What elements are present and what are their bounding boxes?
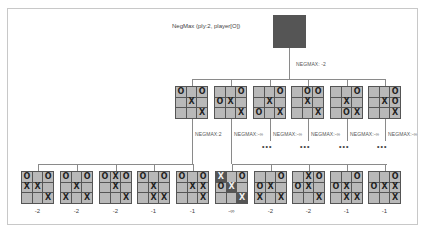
ply2-right-connector [232, 164, 387, 165]
o-mark-cell: O [313, 87, 323, 97]
diagram-title: NegMax (ply:2, player[O]) [172, 23, 240, 29]
ply1-drop-line [347, 79, 348, 86]
empty-cell [237, 183, 247, 193]
o-mark-cell: O [352, 87, 362, 97]
empty-cell [22, 193, 32, 203]
o-mark-cell: O [22, 172, 32, 182]
empty-cell [33, 193, 43, 203]
empty-cell [369, 193, 379, 203]
ply1-board: OXOX [253, 86, 286, 119]
x-mark-cell: X [187, 98, 197, 108]
empty-cell [72, 172, 82, 182]
ply2-drop-line [347, 164, 348, 171]
x-mark-cell: X [111, 183, 121, 193]
empty-cell [314, 183, 324, 193]
o-mark-cell: O [159, 172, 169, 182]
o-mark-cell: O [293, 183, 303, 193]
empty-cell [293, 172, 303, 182]
ply2-drop-line [116, 164, 117, 171]
empty-cell [254, 98, 264, 108]
empty-cell [369, 108, 379, 118]
x-mark-cell: X [276, 193, 286, 203]
ply2-drop-line [193, 164, 194, 171]
ply1-board: OOXX [291, 86, 324, 119]
ply2-left-connector [38, 164, 193, 165]
o-mark-cell: O [369, 183, 379, 193]
o-mark-cell: O [303, 87, 313, 97]
empty-cell [255, 172, 265, 182]
empty-cell [266, 193, 276, 203]
x-mark-cell: X [255, 193, 265, 203]
x-mark-cell: X [72, 183, 82, 193]
ply2-board: OOXXX [254, 171, 287, 204]
empty-cell [215, 108, 225, 118]
o-mark-cell: O [121, 172, 131, 182]
o-mark-cell: O [276, 172, 286, 182]
o-mark-cell: O [390, 98, 400, 108]
empty-cell [265, 108, 275, 118]
empty-cell [331, 98, 341, 108]
o-mark-cell: O [43, 172, 53, 182]
ply1-drop-line [192, 79, 193, 86]
empty-cell [227, 193, 237, 203]
x-mark-cell: X [159, 193, 169, 203]
board-score: -2 [292, 208, 325, 214]
ply2-board: OXOXX [99, 171, 132, 204]
empty-cell [352, 183, 362, 193]
o-mark-cell: O [390, 87, 400, 97]
board-score: -1 [137, 208, 170, 214]
empty-cell [43, 183, 53, 193]
ply1-drop-line [231, 79, 232, 86]
o-mark-cell: O [138, 172, 148, 182]
empty-cell [275, 98, 285, 108]
empty-cell [100, 193, 110, 203]
board-score: -2 [21, 208, 54, 214]
board-score: -2 [60, 208, 93, 214]
x-mark-cell: X [342, 193, 352, 203]
o-mark-cell: O [255, 183, 265, 193]
ply2-drop-line [38, 164, 39, 171]
x-mark-cell: X [236, 108, 246, 118]
ply1-connector [192, 79, 386, 80]
board-score: -1 [368, 208, 401, 214]
x-mark-cell: X [266, 183, 276, 193]
empty-cell [303, 108, 313, 118]
ply2-board: OOXXX [137, 171, 170, 204]
empty-cell [121, 183, 131, 193]
x-mark-cell: X [313, 108, 323, 118]
x-mark-cell: X [314, 193, 324, 203]
board-score: -2 [254, 208, 287, 214]
o-mark-cell: O [331, 183, 341, 193]
ply1-negmax-label: NEGMAX:2 [195, 131, 222, 137]
x-mark-cell: X [188, 183, 198, 193]
empty-cell [331, 87, 341, 97]
ply1-drop-line [270, 79, 271, 86]
empty-cell [342, 172, 352, 182]
o-mark-cell: O [197, 87, 207, 97]
x-mark-cell: X [43, 193, 53, 203]
x-mark-cell: X [33, 183, 43, 193]
ply1-negmax-label: NEGMAX:-∞ [350, 131, 379, 137]
o-mark-cell: O [275, 87, 285, 97]
empty-cell [342, 87, 352, 97]
empty-cell [380, 108, 390, 118]
empty-cell [138, 193, 148, 203]
ply1-negmax-label: NEGMAX:-∞ [311, 131, 340, 137]
x-mark-cell: X [197, 108, 207, 118]
root-board [273, 15, 306, 48]
empty-cell [226, 87, 236, 97]
empty-cell [276, 183, 286, 193]
empty-cell [292, 108, 302, 118]
empty-cell [380, 193, 390, 203]
x-mark-cell: X [198, 193, 208, 203]
empty-cell [187, 87, 197, 97]
board-score: -1 [330, 208, 363, 214]
empty-cell [369, 172, 379, 182]
x-mark-cell: X [303, 98, 313, 108]
empty-cell [177, 183, 187, 193]
empty-cell [216, 193, 226, 203]
empty-cell [226, 108, 236, 118]
o-mark-cell: O [216, 183, 226, 193]
ply2-board: OOXXX [176, 171, 209, 204]
o-mark-cell: O [236, 87, 246, 97]
